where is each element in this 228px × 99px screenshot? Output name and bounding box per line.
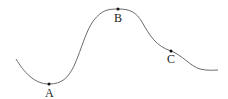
point-c-label: C (167, 52, 175, 66)
curve-diagram: A B C (0, 0, 228, 99)
point-a-label: A (45, 86, 54, 99)
point-b-label: B (114, 11, 122, 25)
